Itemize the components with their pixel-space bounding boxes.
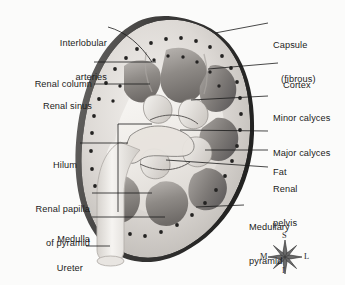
label-renal-sinus: Renal sinus [5, 79, 92, 135]
ureter-distal-end [97, 256, 124, 266]
label-ureter: Ureter [5, 241, 83, 285]
leader-line-capsule-fibrous [215, 23, 268, 33]
compass-label-superior: S [282, 231, 287, 240]
minor-calyx-1 [143, 95, 172, 123]
compass-label-lateral: L [304, 252, 309, 261]
compass-label-medial: M [260, 252, 267, 261]
minor-calyx-2 [179, 99, 209, 129]
compass-label-inferior: I [282, 266, 285, 275]
kidney-coronal-section-figure: Interlobular arteries Renal column Renal… [0, 0, 345, 285]
